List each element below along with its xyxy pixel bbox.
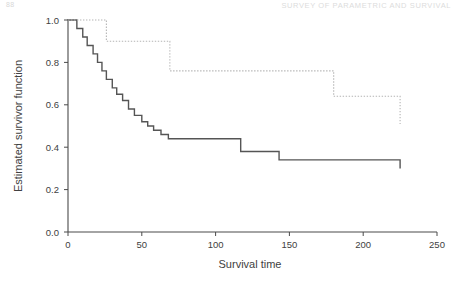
x-tick-label: 250 xyxy=(429,239,445,250)
x-tick-label: 50 xyxy=(137,239,148,250)
survival-plot: 0501001502002500.00.20.40.60.81.0 Surviv… xyxy=(0,0,459,282)
y-tick-label: 0.4 xyxy=(46,142,59,153)
x-axis-title: Survival time xyxy=(219,258,282,270)
x-tick-label: 100 xyxy=(208,239,224,250)
y-tick-label: 0.6 xyxy=(46,99,59,110)
y-tick-label: 0.2 xyxy=(46,184,59,195)
series-line xyxy=(68,20,400,168)
y-tick-label: 0.8 xyxy=(46,57,59,68)
x-tick-label: 0 xyxy=(65,239,70,250)
y-tick-label: 0.0 xyxy=(46,227,59,238)
x-tick-label: 150 xyxy=(281,239,297,250)
figure-container: 88 SURVEY OF PARAMETRIC AND SURVIVAL 050… xyxy=(0,0,459,282)
axes xyxy=(68,19,437,232)
y-axis-title: Estimated survivor function xyxy=(12,60,24,192)
chart-canvas: 0501001502002500.00.20.40.60.81.0 Surviv… xyxy=(0,0,459,282)
y-tick-label: 1.0 xyxy=(46,15,59,26)
series-line xyxy=(68,20,400,124)
data-series xyxy=(68,20,400,168)
axis-tick-labels: 0501001502002500.00.20.40.60.81.0 xyxy=(46,15,445,251)
x-tick-label: 200 xyxy=(355,239,371,250)
axis-ticks xyxy=(64,20,437,236)
